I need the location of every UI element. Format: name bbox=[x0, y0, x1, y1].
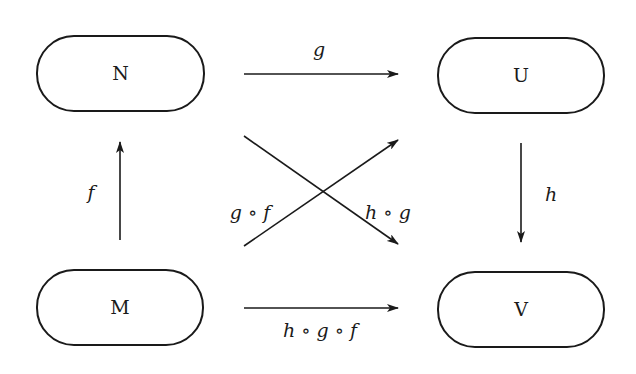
edge-f: f bbox=[85, 142, 120, 240]
commutative-diagram: N U M V g f h g ∘ f h ∘ g h ∘ bbox=[0, 0, 636, 374]
arrow-g-compose-f bbox=[244, 140, 398, 246]
node-v-label: V bbox=[513, 298, 528, 320]
arrow-h-compose-g bbox=[244, 136, 398, 244]
node-n: N bbox=[37, 36, 204, 111]
label-h-compose-g-compose-f: h ∘ g ∘ f bbox=[283, 319, 360, 341]
edge-h: h bbox=[521, 143, 557, 242]
node-n-label: N bbox=[112, 62, 129, 84]
label-g-compose-f: g ∘ f bbox=[230, 201, 274, 223]
node-m: M bbox=[37, 270, 203, 345]
node-u: U bbox=[438, 38, 604, 113]
label-f: f bbox=[85, 181, 97, 203]
label-g: g bbox=[313, 38, 325, 60]
node-u-label: U bbox=[513, 64, 529, 86]
node-m-label: M bbox=[110, 296, 129, 318]
label-h-compose-g: h ∘ g bbox=[365, 201, 411, 223]
edge-g: g bbox=[244, 38, 398, 74]
label-h: h bbox=[545, 183, 557, 205]
node-v: V bbox=[438, 272, 604, 347]
edge-g-compose-f: g ∘ f bbox=[230, 140, 398, 246]
edge-h-compose-g-compose-f: h ∘ g ∘ f bbox=[244, 308, 398, 341]
